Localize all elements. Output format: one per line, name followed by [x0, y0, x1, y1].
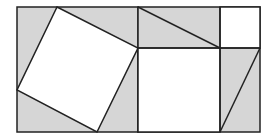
right-square-figure	[138, 7, 260, 132]
pythagorean-proof-diagram	[0, 0, 272, 140]
large-square-b-squared	[138, 48, 220, 132]
left-square-figure	[17, 7, 138, 132]
small-square-a-squared	[220, 7, 260, 48]
